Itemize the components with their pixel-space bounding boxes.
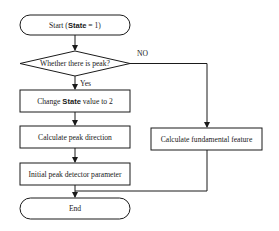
calc-direction-node: Calculate peak direction <box>20 126 130 148</box>
end-label: End <box>69 204 81 213</box>
start-keyword: State <box>68 21 87 30</box>
flowchart: Start (State = 1) Whether there is peak?… <box>0 0 279 231</box>
decision-label: Whether there is peak? <box>40 59 110 68</box>
change-suffix: value to 2 <box>81 97 113 106</box>
arrow-no-branch <box>130 64 207 128</box>
svg-text:Change State value to 2: Change State value to 2 <box>37 97 113 106</box>
init-param-node: Initial peak detector parameter <box>20 163 130 185</box>
change-state-node: Change State value to 2 <box>20 90 130 112</box>
decision-node: Whether there is peak? <box>20 51 130 76</box>
start-prefix: Start ( <box>49 21 68 30</box>
init-param-label: Initial peak detector parameter <box>29 170 122 179</box>
fundamental-node: Calculate fundamental feature <box>151 128 262 150</box>
fundamental-label: Calculate fundamental feature <box>161 135 253 144</box>
change-keyword: State <box>62 97 81 106</box>
calc-direction-label: Calculate peak direction <box>38 133 112 142</box>
change-prefix: Change <box>37 97 62 106</box>
yes-label: Yes <box>80 79 91 88</box>
start-node: Start (State = 1) <box>20 15 130 35</box>
svg-text:Start (State = 1): Start (State = 1) <box>49 21 101 30</box>
start-suffix: = 1) <box>86 21 101 30</box>
no-label: NO <box>137 49 148 58</box>
end-node: End <box>20 198 130 219</box>
